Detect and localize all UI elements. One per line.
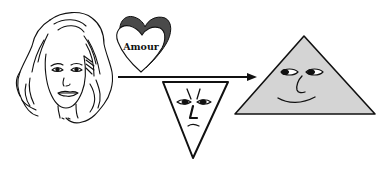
right-arrow bbox=[118, 73, 257, 81]
diagram-canvas: Amour bbox=[0, 0, 388, 173]
heart-label: Amour bbox=[122, 41, 160, 52]
triangle-face-figure bbox=[235, 36, 375, 114]
heart-figure: Amour bbox=[117, 16, 171, 72]
woman-face-figure bbox=[16, 13, 112, 123]
inverted-triangle-face-figure bbox=[163, 82, 228, 158]
